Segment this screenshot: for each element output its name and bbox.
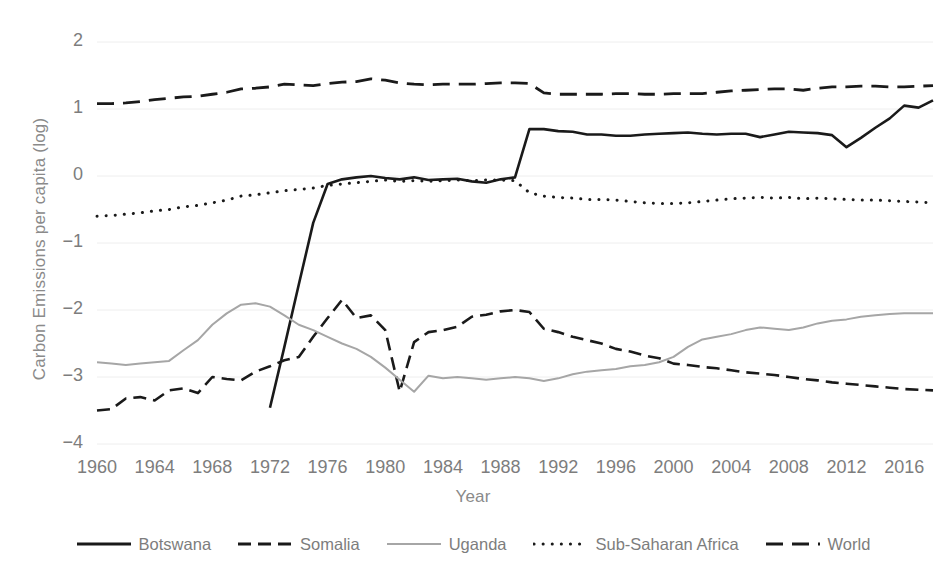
x-tick-label: 1988 (481, 457, 521, 478)
x-tick-label: 2004 (711, 457, 751, 478)
legend-item-botswana[interactable]: Botswana (76, 535, 211, 554)
y-gridlines (97, 42, 933, 444)
x-tick-label: 1996 (596, 457, 636, 478)
series-line-sub-saharan-africa (97, 180, 933, 216)
legend-swatch-icon (765, 537, 821, 551)
x-tick-label: 2016 (884, 457, 924, 478)
legend-label: World (828, 535, 871, 554)
legend-item-sub-saharan-africa[interactable]: Sub-Saharan Africa (533, 535, 739, 554)
x-tick-label: 2000 (654, 457, 694, 478)
chart-legend: BotswanaSomaliaUgandaSub-Saharan AfricaW… (0, 528, 946, 560)
legend-swatch-icon (76, 537, 132, 551)
x-tick-label: 1968 (192, 457, 232, 478)
series-line-botswana (270, 100, 933, 408)
x-tick-label: 1976 (308, 457, 348, 478)
x-tick-label: 1980 (365, 457, 405, 478)
y-axis-title: Carbon Emissions per capita (log) (30, 84, 50, 414)
legend-label: Somalia (300, 535, 360, 554)
legend-swatch-icon (386, 537, 442, 551)
legend-item-somalia[interactable]: Somalia (237, 535, 360, 554)
legend-label: Sub-Saharan Africa (596, 535, 739, 554)
y-tick-label: 2 (37, 30, 83, 51)
x-tick-label: 1984 (423, 457, 463, 478)
legend-swatch-icon (237, 537, 293, 551)
x-tick-label: 2012 (826, 457, 866, 478)
series-line-world (97, 79, 933, 104)
series-lines (97, 79, 933, 411)
x-tick-label: 2008 (769, 457, 809, 478)
x-tick-label: 1972 (250, 457, 290, 478)
legend-item-world[interactable]: World (765, 535, 871, 554)
x-tick-label: 1992 (538, 457, 578, 478)
legend-label: Uganda (449, 535, 507, 554)
x-tick-label: 1964 (135, 457, 175, 478)
x-tick-label: 1960 (77, 457, 117, 478)
x-axis-title: Year (0, 487, 946, 507)
carbon-emissions-line-chart: 210−1−2−3−4 1960196419681972197619801984… (0, 0, 946, 572)
legend-item-uganda[interactable]: Uganda (386, 535, 507, 554)
legend-label: Botswana (139, 535, 211, 554)
legend-swatch-icon (533, 537, 589, 551)
y-tick-label: −4 (37, 432, 83, 453)
